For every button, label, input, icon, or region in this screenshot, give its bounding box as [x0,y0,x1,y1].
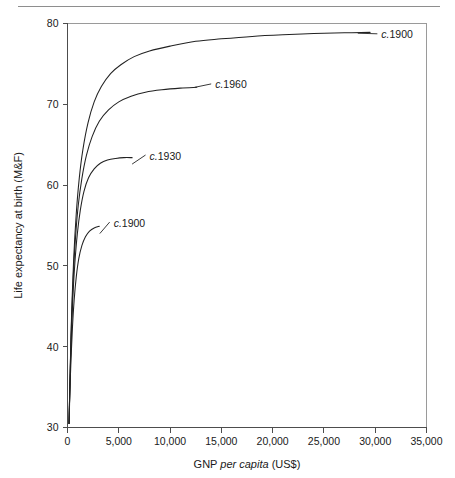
x-tick-label: 20,000 [257,435,289,447]
y-tick-label: 30 [47,421,59,433]
series-leader-line [358,33,378,34]
series-labels: c.1900c.1960c.1930c.1900 [114,28,413,228]
label-leader-lines [100,33,378,233]
x-axis-title-suffix: (US$) [269,458,301,470]
series-label-year: 1900 [390,28,414,40]
series-leader-line [132,155,145,164]
series-leader-line [195,84,212,87]
x-tick-label: 10,000 [154,435,186,447]
series-label: c.1930 [150,150,182,162]
x-axis-title-italic: per capita [219,458,268,470]
series-label-prefix: c. [150,150,158,162]
series-label-prefix: c. [215,78,223,90]
series-label: c.1960 [215,78,247,90]
x-tick-label: 15,000 [205,435,237,447]
y-tick-label: 40 [47,341,59,353]
series-label-year: 1900 [122,217,146,229]
y-tick-labels: 304050607080 [47,17,59,433]
series-label-prefix: c. [114,217,122,229]
chart-canvas: 05,00010,00015,00020,00025,00030,00035,0… [0,0,455,478]
x-tick-label: 30,000 [359,435,391,447]
series-curve [69,158,132,424]
series-label: c.1900 [114,217,146,229]
x-tick-label: 0 [65,435,71,447]
series-leader-line [100,222,110,234]
y-tick-label: 70 [47,98,59,110]
y-axis-title: Life expectancy at birth (M&F) [12,152,24,299]
series-label: c.1900 [381,28,413,40]
series-label-prefix: c. [381,28,389,40]
figure-container: 05,00010,00015,00020,00025,00030,00035,0… [0,0,455,478]
y-tick-label: 50 [47,260,59,272]
x-tick-label: 5,000 [106,435,132,447]
x-axis-title: GNP per capita (US$) [194,458,301,470]
x-tick-labels: 05,00010,00015,00020,00025,00030,00035,0… [65,435,443,447]
x-tick-label: 25,000 [308,435,340,447]
x-axis-title-prefix: GNP [194,458,221,470]
series-label-year: 1930 [158,150,182,162]
series-label-year: 1960 [223,78,247,90]
y-tick-label: 80 [47,17,59,29]
series-curve [69,87,197,423]
y-tick-label: 60 [47,179,59,191]
x-tick-label: 35,000 [410,435,442,447]
